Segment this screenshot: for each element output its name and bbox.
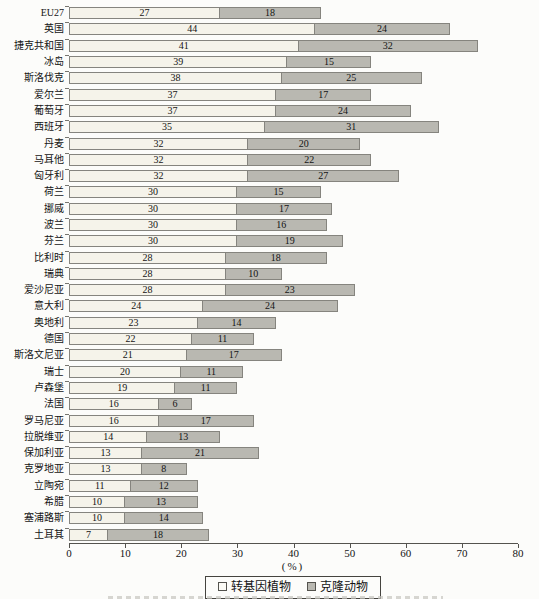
legend-swatch-gm-plants: [218, 582, 227, 591]
bar-row: 芬兰3019: [0, 233, 539, 249]
segment-cloned-animals: 24: [203, 300, 337, 312]
segment-value-label: 41: [179, 41, 189, 51]
category-label: 匈牙利: [0, 171, 69, 181]
segment-cloned-animals: 10: [226, 268, 282, 280]
segment-value-label: 25: [346, 73, 356, 83]
category-label: 葡萄牙: [0, 106, 69, 116]
category-label: 波兰: [0, 220, 69, 230]
segment-value-label: 12: [159, 481, 169, 491]
segment-value-label: 11: [218, 334, 228, 344]
category-label: 马耳他: [0, 155, 69, 165]
bar-stack: 3019: [69, 235, 517, 247]
segment-value-label: 14: [103, 432, 113, 442]
bar-row: 爱尔兰3717: [0, 86, 539, 102]
segment-gm-plants: 37: [69, 89, 276, 101]
segment-value-label: 21: [195, 448, 205, 458]
segment-value-label: 23: [128, 318, 138, 328]
segment-cloned-animals: 13: [147, 431, 220, 443]
bar-row: 意大利2424: [0, 298, 539, 314]
bar-stack: 1911: [69, 382, 517, 394]
bar-row: 葡萄牙3724: [0, 103, 539, 119]
bar-row: 瑞士2011: [0, 364, 539, 380]
segment-cloned-animals: 21: [142, 447, 260, 459]
segment-value-label: 23: [285, 285, 295, 295]
legend-item-gm-plants: 转基因植物: [218, 580, 291, 594]
segment-gm-plants: 44: [69, 23, 315, 35]
bar-stack: 2818: [69, 252, 517, 264]
segment-gm-plants: 32: [69, 138, 248, 150]
segment-value-label: 30: [148, 236, 158, 246]
segment-gm-plants: 28: [69, 252, 226, 264]
bar-stack: 138: [69, 463, 517, 475]
bar-stack: 1112: [69, 480, 517, 492]
segment-value-label: 16: [109, 399, 119, 409]
bar-row: 斯洛文尼亚2117: [0, 347, 539, 363]
segment-gm-plants: 19: [69, 382, 175, 394]
bar-stack: 2011: [69, 366, 517, 378]
segment-value-label: 11: [201, 383, 211, 393]
category-label: 保加利亚: [0, 448, 69, 458]
x-axis-tick-label: 60: [400, 548, 411, 559]
segment-value-label: 32: [154, 155, 164, 165]
bar-row: 西班牙3531: [0, 119, 539, 135]
segment-value-label: 22: [126, 334, 136, 344]
segment-value-label: 11: [95, 481, 105, 491]
segment-value-label: 20: [299, 139, 309, 149]
bar-row: 波兰3016: [0, 217, 539, 233]
segment-cloned-animals: 27: [248, 170, 399, 182]
segment-cloned-animals: 11: [192, 333, 254, 345]
segment-value-label: 30: [148, 204, 158, 214]
segment-value-label: 8: [161, 464, 166, 474]
segment-gm-plants: 27: [69, 7, 220, 19]
segment-cloned-animals: 24: [315, 23, 449, 35]
bar-stack: 3227: [69, 170, 517, 182]
segment-value-label: 15: [324, 57, 334, 67]
x-axis-tick-label: 0: [66, 548, 72, 559]
category-label: 比利时: [0, 253, 69, 263]
bar-stack: 3915: [69, 56, 517, 68]
bar-row: 比利时2818: [0, 249, 539, 265]
bar-row: 塞浦路斯1014: [0, 510, 539, 526]
bar-row: 罗马尼亚1617: [0, 412, 539, 428]
bar-stack: 3717: [69, 89, 517, 101]
category-label: 斯洛伐克: [0, 73, 69, 83]
segment-value-label: 27: [318, 171, 328, 181]
segment-cloned-animals: 11: [181, 366, 243, 378]
segment-gm-plants: 16: [69, 398, 159, 410]
category-label: 罗马尼亚: [0, 416, 69, 426]
segment-cloned-animals: 31: [265, 121, 439, 133]
legend-label: 转基因植物: [231, 580, 291, 594]
bar-row: 丹麦3220: [0, 135, 539, 151]
segment-cloned-animals: 24: [276, 105, 410, 117]
category-label: 荷兰: [0, 187, 69, 197]
bar-stack: 718: [69, 529, 517, 541]
segment-value-label: 18: [271, 253, 281, 263]
segment-value-label: 10: [248, 269, 258, 279]
bar-stack: 1617: [69, 415, 517, 427]
category-label: 英国: [0, 24, 69, 34]
segment-cloned-animals: 12: [131, 480, 198, 492]
segment-gm-plants: 10: [69, 496, 125, 508]
bar-stack: 2810: [69, 268, 517, 280]
segment-value-label: 31: [346, 122, 356, 132]
segment-value-label: 24: [377, 24, 387, 34]
category-label: 意大利: [0, 301, 69, 311]
bar-rows: EU272718英国4424捷克共和国4132冰岛3915斯洛伐克3825爱尔兰…: [0, 0, 539, 543]
category-label: 瑞典: [0, 269, 69, 279]
category-label: 芬兰: [0, 236, 69, 246]
segment-value-label: 35: [162, 122, 172, 132]
category-label: 丹麦: [0, 139, 69, 149]
segment-cloned-animals: 16: [237, 219, 327, 231]
legend-item-cloned-animals: 克隆动物: [307, 580, 368, 594]
segment-gm-plants: 38: [69, 72, 282, 84]
segment-gm-plants: 32: [69, 170, 248, 182]
segment-cloned-animals: 23: [226, 284, 355, 296]
bar-stack: 4424: [69, 23, 517, 35]
segment-cloned-animals: 32: [299, 40, 478, 52]
bar-row: 德国2211: [0, 331, 539, 347]
segment-value-label: 13: [100, 448, 110, 458]
segment-value-label: 15: [274, 187, 284, 197]
segment-gm-plants: 32: [69, 154, 248, 166]
category-label: 西班牙: [0, 122, 69, 132]
segment-gm-plants: 41: [69, 40, 299, 52]
